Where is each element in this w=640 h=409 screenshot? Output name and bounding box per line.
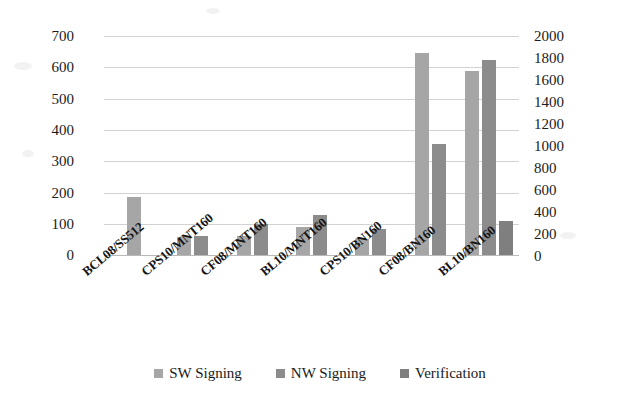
- right-axis-tick-200: 200: [534, 227, 557, 242]
- right-axis-tick-1000: 1000: [534, 139, 564, 154]
- legend-swatch-sw-signing: [154, 369, 163, 378]
- legend-label-verification: Verification: [415, 366, 486, 381]
- left-axis-tick-700: 700: [52, 29, 75, 44]
- scan-noise: [14, 62, 32, 70]
- right-axis-tick-1600: 1600: [534, 73, 564, 88]
- left-axis-tick-0: 0: [67, 248, 75, 263]
- right-axis-tick-800: 800: [534, 161, 557, 176]
- left-axis-tick-100: 100: [52, 217, 75, 232]
- legend-label-nw-signing: NW Signing: [291, 366, 366, 381]
- bar-chart: 700 600 500 400 300 200 100 0 2000 1800 …: [0, 0, 640, 409]
- left-axis-tick-300: 300: [52, 154, 75, 169]
- bar[interactable]: [499, 221, 513, 255]
- right-axis-tick-400: 400: [534, 205, 557, 220]
- bar[interactable]: [465, 71, 479, 255]
- bar[interactable]: [194, 236, 208, 255]
- legend-swatch-verification: [400, 369, 409, 378]
- legend-label-sw-signing: SW Signing: [169, 366, 242, 381]
- legend-item-sw-signing[interactable]: SW Signing: [154, 366, 242, 381]
- right-axis-tick-1200: 1200: [534, 117, 564, 132]
- legend-swatch-nw-signing: [276, 369, 285, 378]
- scan-noise: [206, 8, 220, 14]
- legend-item-verification[interactable]: Verification: [400, 366, 486, 381]
- right-axis-tick-0: 0: [534, 249, 542, 264]
- scan-noise: [560, 232, 576, 239]
- bar-group: [415, 36, 446, 255]
- right-axis-tick-600: 600: [534, 183, 557, 198]
- left-axis-tick-500: 500: [52, 92, 75, 107]
- bar[interactable]: [432, 144, 446, 255]
- left-axis-tick-200: 200: [52, 186, 75, 201]
- legend-item-nw-signing[interactable]: NW Signing: [276, 366, 366, 381]
- right-axis-tick-1800: 1800: [534, 51, 564, 66]
- bar-group: [465, 36, 513, 255]
- left-axis-tick-400: 400: [52, 123, 75, 138]
- right-axis-tick-2000: 2000: [534, 29, 564, 44]
- right-axis-tick-1400: 1400: [534, 95, 564, 110]
- chart-legend: SW Signing NW Signing Verification: [0, 366, 640, 381]
- scan-noise: [22, 150, 34, 157]
- left-axis-tick-600: 600: [52, 60, 75, 75]
